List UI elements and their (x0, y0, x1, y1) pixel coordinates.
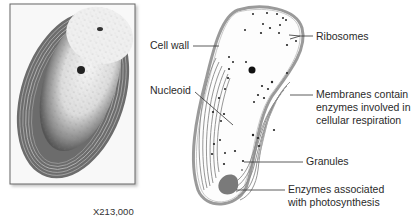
cell-diagram (193, 7, 313, 204)
label-membranes-line-1: Membranes contain (316, 88, 411, 101)
label-photosynthesis-line-2: with photosynthesis (288, 196, 384, 209)
magnification-caption: X213,000 (93, 206, 134, 217)
label-membranes-line-3: cellular respiration (316, 114, 411, 127)
label-ribosomes: Ribosomes (316, 30, 369, 43)
figure: X213,000 Cell wall Nucleoid Ribosomes Me… (0, 0, 416, 219)
nucleoid-body (249, 67, 256, 74)
label-membranes: Membranes contain enzymes involved in ce… (316, 88, 411, 127)
label-photosynthesis-enzymes: Enzymes associated with photosynthesis (288, 183, 384, 209)
label-membranes-line-2: enzymes involved in (316, 101, 411, 114)
label-nucleoid: Nucleoid (150, 84, 191, 97)
label-photosynthesis-line-1: Enzymes associated (288, 183, 384, 196)
micrograph-dark-granule (77, 66, 85, 74)
label-cell-wall: Cell wall (150, 39, 189, 52)
label-granules: Granules (306, 155, 349, 168)
